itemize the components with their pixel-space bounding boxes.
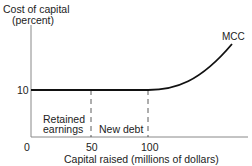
region-label-new-debt: New debt (99, 123, 143, 135)
x-tick-0: 0 (24, 141, 30, 153)
region-label-retained-line2: earnings (43, 123, 83, 135)
x-tick-100: 100 (141, 141, 159, 153)
series-label-mcc: MCC (222, 31, 245, 43)
x-tick-50: 50 (86, 141, 98, 153)
mcc-curve (31, 44, 232, 90)
x-axis-title: Capital raised (millions of dollars) (64, 153, 219, 165)
y-axis-title-line2: (percent) (12, 14, 54, 26)
y-tick-10: 10 (17, 84, 29, 96)
